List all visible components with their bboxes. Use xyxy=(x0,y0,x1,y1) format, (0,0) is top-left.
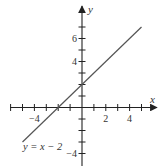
y-axis-label: y xyxy=(87,3,93,15)
x-tick-label: 2 xyxy=(103,113,108,124)
x-axis-label: x xyxy=(149,93,155,105)
x-tick-label: 4 xyxy=(127,113,132,124)
y-tick-label: 4 xyxy=(72,56,77,67)
y-tick-label: 6 xyxy=(72,33,77,44)
x-tick-label: −4 xyxy=(29,113,40,124)
y-tick-label: −4 xyxy=(66,148,77,159)
line-graph: −42464−4 x y y = x − 2 xyxy=(0,0,161,168)
equation-label: y = x − 2 xyxy=(22,141,63,152)
